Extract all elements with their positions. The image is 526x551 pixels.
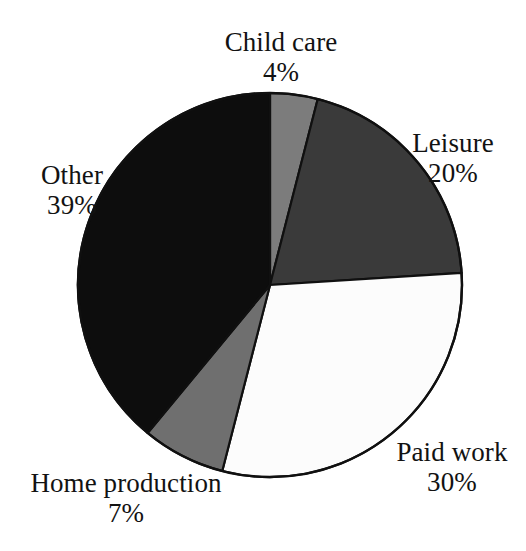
slice-label-leisure-name: Leisure (383, 128, 523, 158)
slice-label-other-value: 39% (12, 190, 132, 220)
slice-label-other-name: Other (12, 160, 132, 190)
slice-label-home-production-name: Home production (8, 468, 244, 498)
slice-label-paid-work-name: Paid work (378, 437, 526, 467)
slice-label-other: Other 39% (12, 160, 132, 220)
slice-label-child-care-name: Child care (186, 27, 376, 57)
slice-label-child-care: Child care 4% (186, 27, 376, 87)
slice-label-child-care-value: 4% (186, 57, 376, 87)
slice-label-home-production: Home production 7% (8, 468, 244, 528)
slice-label-paid-work: Paid work 30% (378, 437, 526, 497)
pie-chart-figure: Child care 4% Leisure 20% Paid work 30% … (0, 0, 526, 551)
slice-label-leisure: Leisure 20% (383, 128, 523, 188)
slice-label-home-production-value: 7% (8, 498, 244, 528)
slice-label-leisure-value: 20% (383, 158, 523, 188)
slice-label-paid-work-value: 30% (378, 467, 526, 497)
